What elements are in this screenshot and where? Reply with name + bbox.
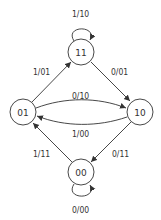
edge-label-11-11: 1/10: [72, 9, 89, 19]
edge-label-00-00: 0/00: [72, 205, 89, 215]
state-label-10: 10: [134, 108, 146, 118]
state-node-01: 01: [10, 99, 36, 125]
edge-label-11-10: 0/01: [111, 67, 128, 77]
edge-00-to-00: [72, 184, 91, 196]
state-node-11: 11: [68, 39, 94, 65]
state-label-11: 11: [75, 48, 86, 58]
edge-label-01-11: 1/01: [33, 67, 50, 77]
edge-label-00-01: 1/11: [33, 149, 50, 159]
edge-label-01-10: 0/10: [72, 91, 89, 101]
edge-label-10-00: 0/11: [112, 149, 129, 159]
edge-label-10-01: 1/00: [72, 129, 89, 139]
state-node-00: 00: [68, 159, 94, 185]
state-node-10: 10: [127, 99, 153, 125]
state-label-01: 01: [17, 108, 28, 118]
state-diagram: 1/10 1/01 0/01 0/10 1/00 1/11 0/11 0/00 …: [0, 0, 161, 220]
state-label-00: 00: [75, 168, 87, 178]
edge-10-to-01: [37, 116, 127, 124]
